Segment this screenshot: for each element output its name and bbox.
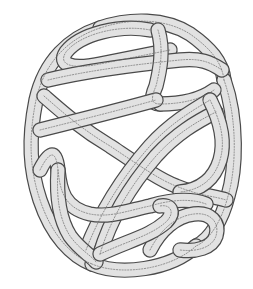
bands-svg	[0, 0, 253, 289]
interwoven-bands-diagram	[0, 0, 253, 289]
band-fills	[31, 21, 234, 270]
